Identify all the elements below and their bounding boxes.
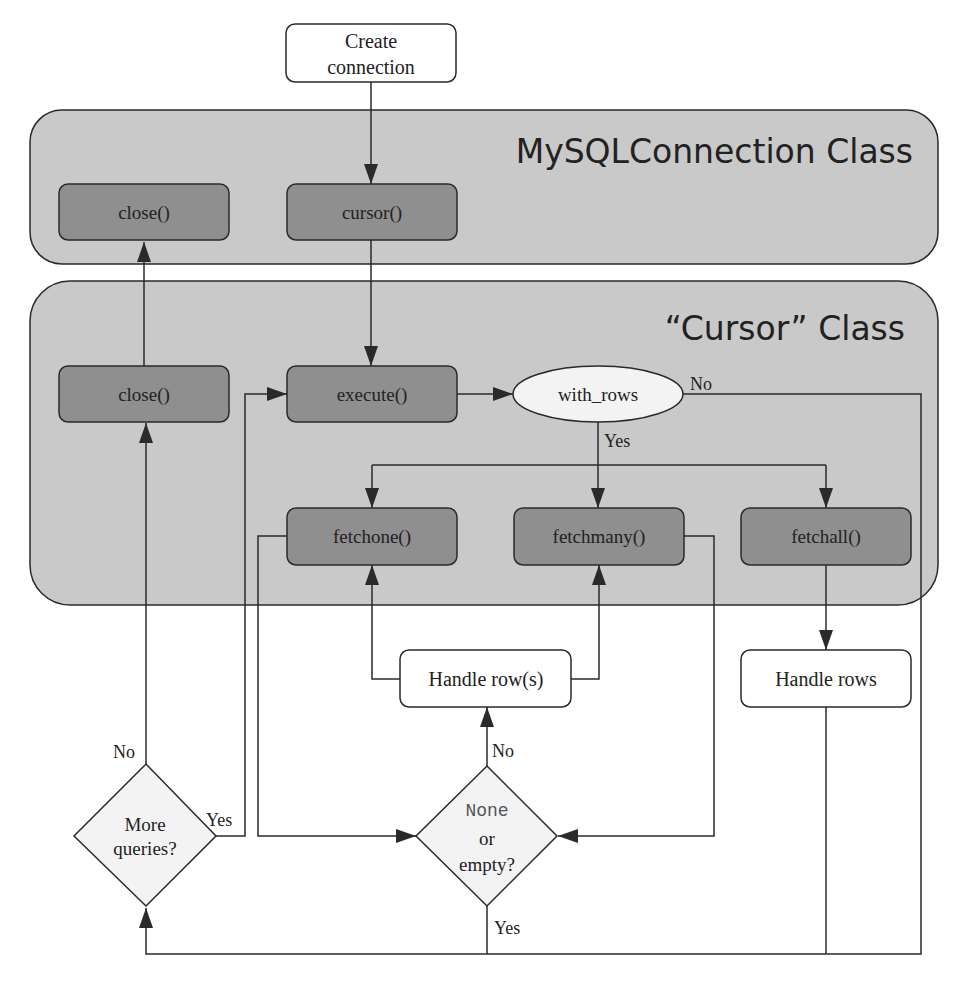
more-queries-yes-label: Yes bbox=[206, 810, 232, 830]
handle-row-s-label: Handle row(s) bbox=[429, 668, 544, 691]
more-queries-line1: More bbox=[124, 814, 165, 835]
cursor-label: cursor() bbox=[342, 202, 402, 224]
cursor-close-label: close() bbox=[118, 384, 170, 406]
fetchone-method: fetchone() bbox=[287, 508, 457, 565]
create-connection-line2: connection bbox=[327, 56, 415, 78]
fetchall-label: fetchall() bbox=[791, 526, 861, 548]
more-queries-line2: queries? bbox=[113, 838, 176, 859]
connection-class-title: MySQLConnection Class bbox=[516, 132, 913, 171]
handle-rows-node: Handle rows bbox=[741, 650, 911, 707]
with-rows-node: with_rows bbox=[513, 366, 683, 422]
none-or-empty-line1: None bbox=[465, 801, 508, 821]
more-queries-no-label: No bbox=[113, 742, 135, 762]
fetchone-label: fetchone() bbox=[333, 526, 411, 548]
execute-method: execute() bbox=[287, 366, 457, 422]
connection-close-method: close() bbox=[59, 184, 229, 240]
fetchmany-method: fetchmany() bbox=[514, 508, 684, 565]
with-rows-no-label: No bbox=[690, 374, 712, 394]
none-empty-yes-label: Yes bbox=[494, 918, 520, 938]
more-queries-decision: More queries? bbox=[74, 764, 216, 906]
handle-rows-label: Handle rows bbox=[775, 668, 877, 690]
none-or-empty-decision: None or empty? bbox=[416, 766, 557, 906]
fetchmany-label: fetchmany() bbox=[553, 526, 646, 548]
cursor-method: cursor() bbox=[287, 184, 457, 240]
create-connection-line1: Create bbox=[345, 30, 397, 52]
none-or-empty-line2: or bbox=[479, 828, 496, 849]
fetchall-method: fetchall() bbox=[741, 508, 911, 565]
cursor-class-title: “Cursor” Class bbox=[665, 309, 905, 348]
none-or-empty-line3: empty? bbox=[459, 854, 515, 875]
connection-close-label: close() bbox=[118, 202, 170, 224]
cursor-close-method: close() bbox=[59, 366, 229, 422]
handle-row-s-node: Handle row(s) bbox=[400, 650, 571, 707]
with-rows-yes-label: Yes bbox=[604, 431, 630, 451]
with-rows-label: with_rows bbox=[558, 384, 638, 405]
flowchart: MySQLConnection Class “Cursor” Class bbox=[0, 0, 959, 989]
create-connection-node: Create connection bbox=[286, 24, 456, 82]
none-empty-no-label: No bbox=[492, 741, 514, 761]
execute-label: execute() bbox=[337, 384, 408, 406]
